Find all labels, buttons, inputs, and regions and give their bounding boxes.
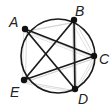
point-label-b: B bbox=[75, 4, 84, 18]
edge-bd bbox=[74, 20, 75, 89]
point-label-c: C bbox=[99, 52, 109, 66]
circumcircle bbox=[21, 19, 95, 93]
faint-edge-de bbox=[23, 83, 74, 92]
faint-edge-ce bbox=[23, 59, 93, 83]
faint-edge-ac bbox=[24, 32, 93, 59]
point-a bbox=[22, 26, 28, 32]
pentagram-diagram: A B C D E bbox=[0, 0, 112, 108]
point-label-a: A bbox=[9, 15, 18, 29]
point-c bbox=[91, 53, 97, 59]
point-label-d: D bbox=[78, 92, 88, 106]
point-label-e: E bbox=[10, 85, 19, 99]
faint-edge-ea bbox=[23, 32, 24, 83]
point-e bbox=[21, 77, 27, 83]
